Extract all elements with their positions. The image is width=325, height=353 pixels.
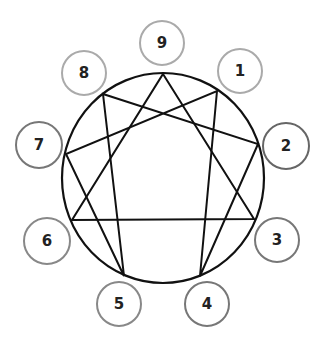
node-label: 8 <box>79 64 89 82</box>
type-node-1: 1 <box>218 49 262 93</box>
node-label: 2 <box>281 137 291 155</box>
type-node-6: 6 <box>24 218 70 264</box>
type-node-4: 4 <box>185 282 229 326</box>
type-node-2: 2 <box>263 123 309 169</box>
type-node-9: 9 <box>140 21 184 65</box>
type-nodes: 912345678 <box>16 21 309 326</box>
node-label: 6 <box>42 232 52 250</box>
enneagram-diagram: 912345678 <box>0 0 325 353</box>
node-label: 7 <box>34 136 44 154</box>
node-label: 4 <box>202 295 212 313</box>
node-label: 5 <box>114 295 124 313</box>
node-label: 9 <box>157 34 167 52</box>
type-node-8: 8 <box>62 51 106 95</box>
connecting-lines <box>66 74 258 276</box>
type-node-5: 5 <box>97 282 141 326</box>
node-label: 3 <box>272 231 282 249</box>
node-label: 1 <box>235 62 245 80</box>
type-node-7: 7 <box>16 122 62 168</box>
main-circle <box>62 73 264 283</box>
type-node-3: 3 <box>255 218 299 262</box>
